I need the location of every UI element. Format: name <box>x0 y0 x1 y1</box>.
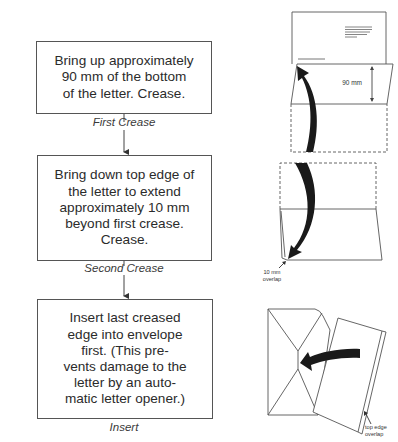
step-text: Bring down top edge of the letter to ext… <box>55 167 195 248</box>
step-caption-insert: Insert <box>36 421 212 433</box>
address-lines-icon <box>345 27 372 37</box>
step-text: Bring up approximately 90 mm of the bott… <box>54 53 193 102</box>
fold-down-arrow-icon <box>288 163 315 259</box>
top-edge-label-line2: overlap <box>365 431 383 437</box>
step-text: Insert last creased edge into envelope f… <box>63 310 186 407</box>
step-caption-second-crease: Second Crease <box>36 262 212 274</box>
step-box-second-crease: Bring down top edge of the letter to ext… <box>37 155 212 261</box>
dimension-label: 90 mm <box>342 79 362 86</box>
overlap-label-line2: overlap <box>263 276 281 282</box>
step-caption-first-crease: First Crease <box>36 116 212 128</box>
step-box-first-crease: Bring up approximately 90 mm of the bott… <box>36 41 212 114</box>
top-edge-label-line1: top edge <box>365 424 387 430</box>
overlap-label-line1: 10 mm <box>263 269 280 275</box>
step-box-insert: Insert last creased edge into envelope f… <box>37 299 213 419</box>
illustration-insert <box>268 309 386 434</box>
illustration-second-crease <box>279 163 382 268</box>
